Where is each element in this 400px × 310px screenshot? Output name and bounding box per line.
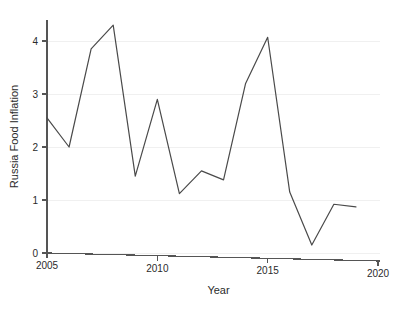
y-tick-label-4: 4 <box>32 36 38 47</box>
gridlines <box>47 41 380 253</box>
y-axis-title: Russia Food Inflation <box>8 85 20 188</box>
x-tick-label-2: 2015 <box>257 265 280 276</box>
y-axis-ticks: 01234 <box>32 36 47 259</box>
chart-container: 01234 2005201020152020 Year Russia Food … <box>0 0 400 310</box>
x-tick-label-3: 2020 <box>367 268 390 279</box>
x-tick-label-1: 2010 <box>146 263 169 274</box>
y-tick-label-0: 0 <box>32 248 38 259</box>
data-series-layer <box>47 25 356 245</box>
line-chart: 01234 2005201020152020 Year Russia Food … <box>0 0 400 310</box>
y-tick-label-2: 2 <box>32 142 38 153</box>
y-tick-label-1: 1 <box>32 195 38 206</box>
axes-lines <box>47 20 380 261</box>
x-tick-label-0: 2005 <box>36 260 59 271</box>
x-axis-line <box>47 253 380 261</box>
data-line-series-0 <box>47 25 356 245</box>
y-tick-label-3: 3 <box>32 89 38 100</box>
x-axis-title: Year <box>207 284 230 296</box>
